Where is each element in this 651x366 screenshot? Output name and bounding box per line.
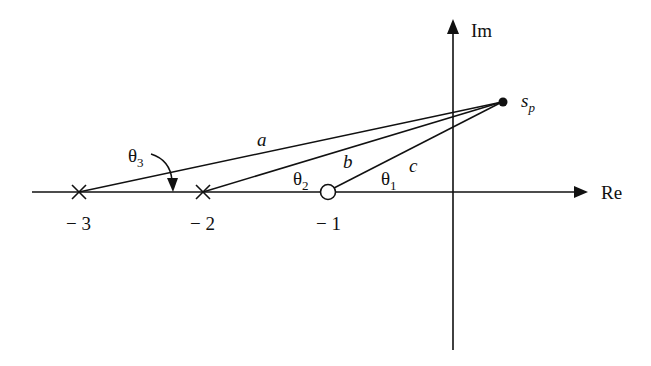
angle-theta2-label: θ2 bbox=[293, 168, 309, 193]
angle-theta1-label: θ1 bbox=[381, 168, 397, 193]
angle-theta3-label: θ3 bbox=[128, 145, 144, 170]
imag-axis-arrow-icon bbox=[447, 19, 459, 34]
vector-a-label: a bbox=[257, 129, 267, 150]
vector-a bbox=[79, 102, 502, 192]
tick-label-minus-1: − 1 bbox=[316, 213, 341, 234]
tick-label-minus-2: − 2 bbox=[190, 213, 215, 234]
tick-label-minus-3: − 3 bbox=[66, 213, 91, 234]
real-axis-arrow-icon bbox=[574, 186, 588, 198]
vector-c-label: c bbox=[409, 155, 418, 176]
real-axis bbox=[32, 186, 588, 198]
zero-minus-1-marker bbox=[321, 185, 336, 200]
test-point-dot bbox=[499, 98, 508, 107]
imag-axis bbox=[447, 19, 459, 350]
test-point-label: sp bbox=[521, 90, 535, 115]
s-plane-diagram: Re Im sp − 3 − 2 − 1 a b c θ3 θ2 θ1 bbox=[0, 0, 651, 366]
real-axis-label: Re bbox=[601, 182, 622, 203]
vector-b-label: b bbox=[343, 151, 353, 172]
imag-axis-label: Im bbox=[471, 20, 492, 41]
theta3-arrowhead-icon bbox=[167, 178, 178, 192]
